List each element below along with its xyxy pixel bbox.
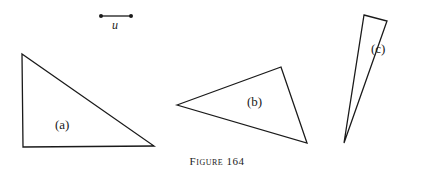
figure-svg (0, 0, 434, 170)
figure-canvas: u (a) (b) (c) Figure 164 (0, 0, 434, 170)
triangle-c (344, 15, 387, 143)
unit-segment-label: u (112, 19, 118, 31)
triangle-a (22, 54, 154, 147)
triangle-c-label: (c) (371, 42, 385, 55)
triangle-b (177, 67, 307, 143)
unit-segment-endpoint-right (129, 14, 133, 18)
triangle-b-label: (b) (247, 95, 262, 108)
figure-caption: Figure 164 (0, 155, 434, 167)
triangle-a-label: (a) (55, 118, 69, 131)
unit-segment-endpoint-left (99, 14, 103, 18)
